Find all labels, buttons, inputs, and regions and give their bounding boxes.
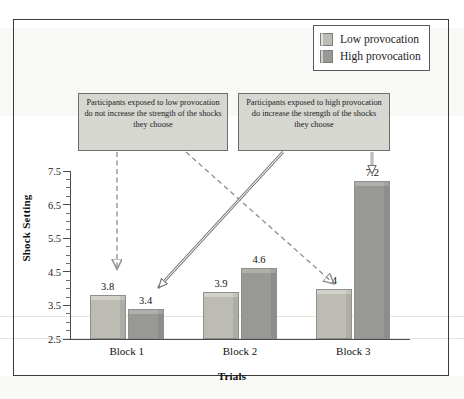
bar-side-face xyxy=(120,296,125,338)
y-tick-label: 5.5 xyxy=(31,233,61,244)
y-tick-minor xyxy=(66,297,71,298)
x-group-label: Block 1 xyxy=(109,345,144,357)
x-axis-title: Trials xyxy=(0,370,464,382)
y-tick-minor xyxy=(66,280,71,281)
y-tick-label: 2.5 xyxy=(31,334,61,345)
y-tick-major xyxy=(63,238,71,239)
y-tick-minor xyxy=(66,221,71,222)
legend: Low provocation High provocation xyxy=(313,25,430,71)
bar-value-label: 3.8 xyxy=(101,281,114,292)
bar-high-block-3 xyxy=(354,181,390,339)
bar-value-label: 3.9 xyxy=(214,278,227,289)
callout-high-provocation: Participants exposed to high provocation… xyxy=(238,93,390,151)
y-tick-major xyxy=(63,204,71,205)
y-axis-title: Shock Setting xyxy=(20,183,32,273)
x-group-label: Block 2 xyxy=(223,345,258,357)
y-tick-minor xyxy=(66,196,71,197)
bar-side-face xyxy=(233,293,238,338)
bar-side-face xyxy=(346,290,351,338)
legend-item-low: Low provocation xyxy=(320,31,421,48)
bar-low-block-1 xyxy=(90,295,126,339)
figure-root: Low provocation High provocation Partici… xyxy=(0,0,464,399)
bar-high-block-1 xyxy=(128,309,164,339)
legend-label-high: High provocation xyxy=(340,51,421,63)
legend-swatch-icon xyxy=(320,33,333,46)
y-tick-minor xyxy=(66,313,71,314)
y-tick-minor xyxy=(66,229,71,230)
y-tick-minor xyxy=(66,255,71,256)
legend-label-low: Low provocation xyxy=(340,34,419,46)
y-tick-label: 6.5 xyxy=(31,199,61,210)
y-tick-major xyxy=(63,339,71,340)
bar-side-face xyxy=(271,269,276,338)
y-tick-minor xyxy=(66,213,71,214)
y-tick-major xyxy=(63,171,71,172)
bar-value-label: 4.6 xyxy=(252,254,265,265)
bar-value-label: 3.4 xyxy=(139,295,152,306)
x-group-label: Block 3 xyxy=(336,345,371,357)
x-axis-line xyxy=(70,339,410,340)
bar-side-face xyxy=(158,310,163,338)
bar-low-block-2 xyxy=(203,292,239,339)
bar-value-label: 4 xyxy=(332,275,337,286)
y-tick-minor xyxy=(66,263,71,264)
bar-low-block-3 xyxy=(316,289,352,339)
y-tick-minor xyxy=(66,187,71,188)
y-tick-minor xyxy=(66,322,71,323)
y-tick-major xyxy=(63,271,71,272)
y-tick-minor xyxy=(66,179,71,180)
callout-low-provocation: Participants exposed to low provocation … xyxy=(78,93,228,151)
legend-item-high: High provocation xyxy=(320,48,421,65)
y-tick-minor xyxy=(66,246,71,247)
y-tick-minor xyxy=(66,288,71,289)
y-tick-minor xyxy=(66,330,71,331)
bar-value-label: 7.2 xyxy=(366,167,379,178)
y-tick-major xyxy=(63,305,71,306)
legend-swatch-icon xyxy=(320,50,333,63)
bar-high-block-2 xyxy=(241,268,277,339)
bar-side-face xyxy=(384,182,389,338)
y-tick-label: 3.5 xyxy=(31,300,61,311)
y-tick-label: 4.5 xyxy=(31,266,61,277)
y-tick-label: 7.5 xyxy=(31,166,61,177)
